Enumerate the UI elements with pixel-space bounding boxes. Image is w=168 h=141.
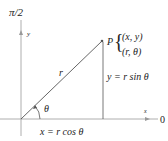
diagram-canvas: π/2 y x 0 P { (x, y) (r, θ) r θ y = r si… (0, 0, 168, 141)
radius-label: r (59, 67, 63, 78)
point-label: P (106, 36, 113, 47)
angle-label: θ (44, 103, 49, 114)
polar-coords: (r, θ) (122, 46, 142, 58)
point-p (101, 40, 104, 43)
x-arrow-icon (145, 117, 150, 121)
polar-cartesian-diagram: π/2 y x 0 P { (x, y) (r, θ) r θ y = r si… (0, 0, 168, 141)
y-arrow-icon (19, 30, 23, 35)
y-equation: y = r sin θ (106, 71, 149, 82)
cartesian-coords: (x, y) (122, 31, 143, 43)
radius-line (21, 41, 102, 119)
polar-axis-label: 0 (160, 114, 165, 125)
pole-axis-label: π/2 (9, 6, 24, 18)
y-axis-label: y (26, 30, 31, 38)
x-axis-label: x (143, 108, 147, 114)
x-equation: x = r cos θ (39, 126, 83, 137)
